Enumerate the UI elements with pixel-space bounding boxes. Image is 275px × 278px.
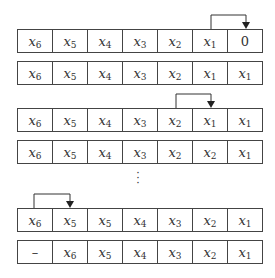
register-row-2: x6x5x4x3x2x1x1 [17,61,263,85]
register-cell: x5 [53,109,88,131]
register-cell: x3 [158,241,193,263]
register-cell: x6 [18,62,53,84]
register-cell: x5 [53,209,88,231]
register-cell: – [18,241,53,263]
register-cell: x5 [53,141,88,163]
register-cell: x1 [228,241,262,263]
ellipsis: ··· [136,171,140,186]
register-cell: x3 [123,109,158,131]
register-cell: x1 [228,209,262,231]
register-cell: 0 [228,30,262,52]
register-cell: x1 [228,62,262,84]
register-cell: x3 [158,209,193,231]
register-cell: x1 [228,141,262,163]
register-cell: x5 [88,241,123,263]
register-cell: x2 [193,209,228,231]
shift-arrow-line [34,194,70,208]
register-row-4: x6x5x4x3x2x2x1 [17,140,263,164]
arrowhead-icon [66,201,74,208]
register-cell: x1 [228,109,262,131]
register-row-3: x6x5x4x3x2x1x1 [17,108,263,132]
register-cell: x5 [53,62,88,84]
register-cell: x6 [18,209,53,231]
register-cell: x6 [18,30,53,52]
register-row-1: x6x5x4x3x2x10 [17,29,263,53]
register-row-5: x6x5x5x4x3x2x1 [17,208,263,232]
register-cell: x4 [88,141,123,163]
register-cell: x4 [88,62,123,84]
register-cell: x6 [18,141,53,163]
register-cell: x4 [123,241,158,263]
register-cell: x2 [158,141,193,163]
register-cell: x2 [158,62,193,84]
register-cell: x6 [53,241,88,263]
register-cell: x2 [193,141,228,163]
arrowhead-icon [242,22,250,29]
register-cell: x1 [193,109,228,131]
shift-arrow-line [211,15,246,29]
register-cell: x3 [123,141,158,163]
register-cell: x2 [193,241,228,263]
register-cell: x4 [88,30,123,52]
register-cell: x2 [158,109,193,131]
register-cell: x2 [158,30,193,52]
register-cell: x5 [88,209,123,231]
register-cell: x1 [193,30,228,52]
register-cell: x4 [123,209,158,231]
shift-arrow-line [176,94,211,108]
register-cell: x3 [123,62,158,84]
register-cell: x1 [193,62,228,84]
register-row-6: –x6x5x4x3x2x1 [17,240,263,264]
register-cell: x4 [88,109,123,131]
register-cell: x3 [123,30,158,52]
register-cell: x5 [53,30,88,52]
arrowhead-icon [207,101,215,108]
register-cell: x6 [18,109,53,131]
